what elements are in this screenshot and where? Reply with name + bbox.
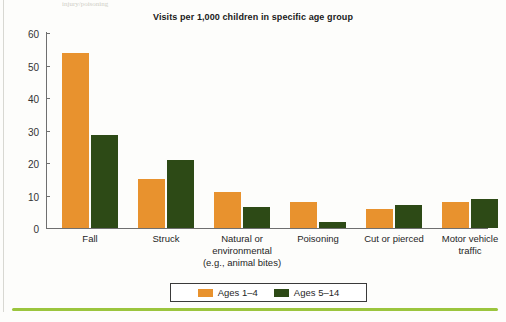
y-tick-label: 10 [28,187,46,205]
y-tick-label: 50 [28,57,46,75]
chart-title: Visits per 1,000 children in specific ag… [0,12,506,22]
y-tick-label: 20 [28,154,46,172]
legend-label: Ages 5–14 [294,287,339,298]
chart-legend: Ages 1–4Ages 5–14 [170,283,367,302]
y-tick-label: 30 [28,122,46,140]
y-tick-label: 60 [28,24,46,42]
bar [243,207,270,228]
page-bottom-rule [12,308,498,311]
y-tick-mark [46,163,50,164]
bar [319,222,346,229]
legend-label: Ages 1–4 [218,287,258,298]
y-tick-mark [46,66,50,67]
page-top-artifact-text: injury/poisoning [62,1,182,7]
bar [214,192,241,228]
bar-group [442,199,498,228]
x-axis-label-line: environmental [182,245,302,257]
legend-swatch [198,289,213,297]
y-tick-mark [46,196,50,197]
bar [167,160,194,228]
y-tick-mark [46,228,50,229]
x-axis-label-line: traffic [410,245,506,257]
bar-group [214,192,270,228]
bar-group [138,160,194,228]
y-tick-mark [46,131,50,132]
bar [471,199,498,228]
bar [138,179,165,228]
bar [62,53,89,229]
bar-group [290,202,346,228]
y-tick-label: 40 [28,89,46,107]
x-axis-label-line: (e.g., animal bites) [182,257,302,269]
bar [442,202,469,228]
bar [366,209,393,229]
legend-item[interactable]: Ages 5–14 [274,287,339,298]
x-axis-line [46,228,488,229]
page-left-rule [3,0,4,312]
x-axis-label: Motor vehicletraffic [410,233,506,257]
bar [290,202,317,228]
bar-group [366,205,422,228]
bar [395,205,422,228]
x-axis-label-line: Motor vehicle [410,233,506,245]
legend-item[interactable]: Ages 1–4 [198,287,258,298]
bar [91,135,118,228]
bar-group [62,53,118,229]
legend-swatch [274,289,289,297]
y-tick-mark [46,98,50,99]
plot-area: 0102030405060 [46,33,488,228]
y-tick-mark [46,33,50,34]
